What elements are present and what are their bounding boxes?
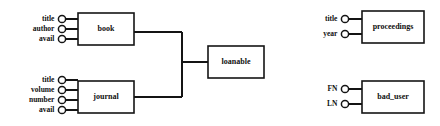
attribute-journal-volume[interactable]: volume [31,85,78,94]
attribute-book-author[interactable]: author [33,24,78,33]
attribute-book-title[interactable]: title [42,14,78,23]
attribute-circle-icon[interactable] [341,30,348,37]
attribute-journal-number[interactable]: number [29,95,78,104]
attribute-circle-icon[interactable] [58,76,65,83]
attribute-journal-avail[interactable]: avail [39,105,78,114]
attribute-proceedings-title[interactable]: title [325,14,362,23]
entity-book[interactable]: booktitleauthoravail [33,13,134,45]
attribute-circle-icon[interactable] [58,35,65,42]
entity-label-journal: journal [92,92,119,101]
attribute-proceedings-year[interactable]: year [323,29,362,38]
attribute-circle-icon[interactable] [341,15,348,22]
attribute-circle-icon[interactable] [58,96,65,103]
attribute-journal-title[interactable]: title [42,75,78,84]
entity-journal[interactable]: journaltitlevolumenumberavail [29,75,134,114]
attribute-circle-icon[interactable] [58,25,65,32]
diagram-canvas: booktitleauthoravailjournaltitlevolumenu… [0,0,440,126]
attribute-label: FN [327,84,338,93]
attribute-circle-icon[interactable] [341,85,348,92]
attribute-label: title [42,75,55,84]
attribute-label: avail [39,105,54,114]
attribute-label: number [29,95,55,104]
attribute-label: title [325,14,338,23]
entity-proceedings[interactable]: proceedingstitleyear [323,11,424,43]
attribute-label: volume [31,85,55,94]
attribute-bad_user-fn[interactable]: FN [327,84,362,93]
attribute-label: LN [327,99,338,108]
er-diagram: booktitleauthoravailjournaltitlevolumenu… [0,0,440,126]
attribute-label: year [323,29,338,38]
entity-loanable[interactable]: loanable [208,46,264,78]
attribute-book-avail[interactable]: avail [39,34,78,43]
entity-bad_user[interactable]: bad_userFNLN [327,81,424,113]
attribute-label: avail [39,34,54,43]
entity-label-book: book [98,24,115,33]
attribute-label: title [42,14,55,23]
attribute-circle-icon[interactable] [341,100,348,107]
attribute-circle-icon[interactable] [58,15,65,22]
connector-lines-group [134,32,208,97]
attribute-bad_user-ln[interactable]: LN [327,99,362,108]
entities-group: booktitleauthoravailjournaltitlevolumenu… [29,11,424,114]
entity-label-bad_user: bad_user [377,92,409,101]
attribute-label: author [33,24,55,33]
attribute-circle-icon[interactable] [58,86,65,93]
attribute-circle-icon[interactable] [58,106,65,113]
entity-label-proceedings: proceedings [373,22,414,31]
entity-label-loanable: loanable [222,57,251,66]
